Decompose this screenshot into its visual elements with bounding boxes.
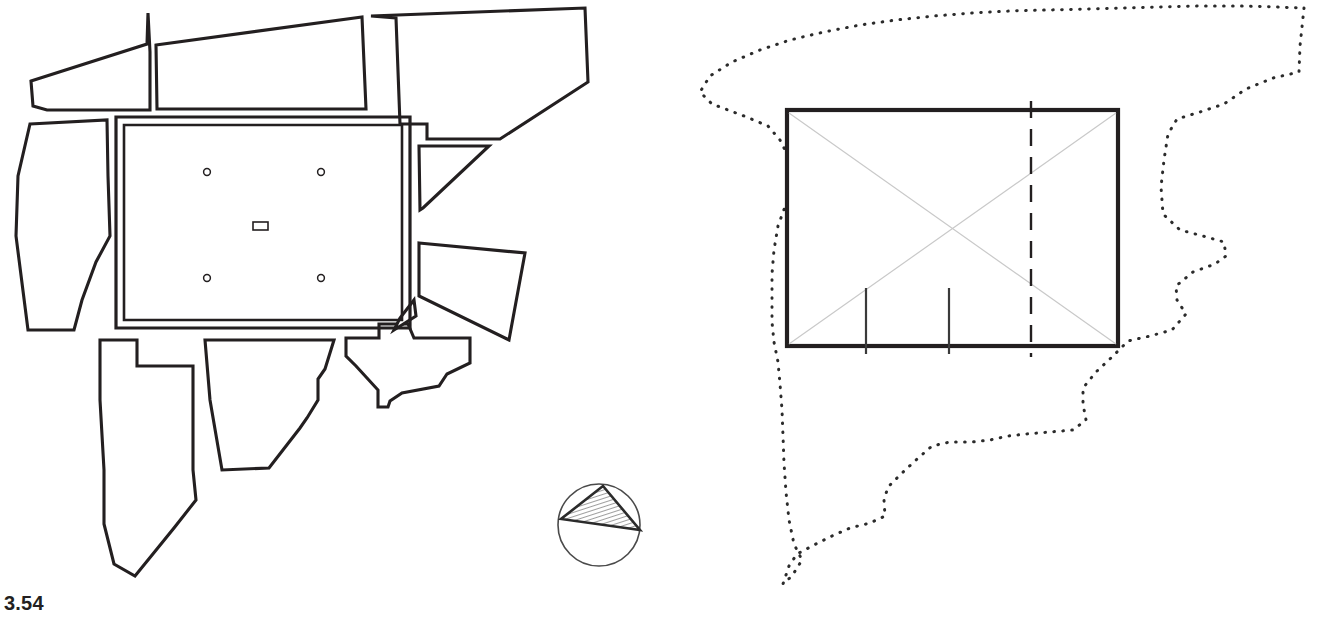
figure-panel-3-55: 3.55	[657, 0, 1317, 630]
block-east-upper	[419, 146, 489, 210]
courtyard-column-marker-1	[204, 169, 211, 176]
block-south-east-strip	[346, 324, 470, 407]
block-north-west-wing	[31, 13, 150, 110]
block-south-centre	[205, 340, 334, 470]
plan-block-group	[16, 8, 588, 576]
figure-panel-3-54: 3.54	[0, 0, 660, 630]
site-plan-drawing-3-54	[0, 0, 660, 630]
figure-page: 3.54 3.55	[0, 0, 1317, 630]
courtyard-column-marker-2	[318, 169, 325, 176]
courtyard-column-marker-4	[318, 275, 325, 282]
courtyard-column-marker-3	[204, 275, 211, 282]
block-west-upper	[16, 120, 110, 330]
site-plan-drawing-3-55	[657, 0, 1317, 630]
block-east-lower	[419, 243, 525, 340]
block-north-centre	[156, 17, 366, 109]
central-courtyard	[116, 117, 410, 328]
north-arrow	[558, 484, 640, 566]
block-south-west-tail	[100, 340, 196, 576]
courtyard-centre-stone	[253, 222, 268, 230]
figure-caption-3-54: 3.54	[4, 592, 44, 615]
block-north-east	[371, 8, 588, 139]
